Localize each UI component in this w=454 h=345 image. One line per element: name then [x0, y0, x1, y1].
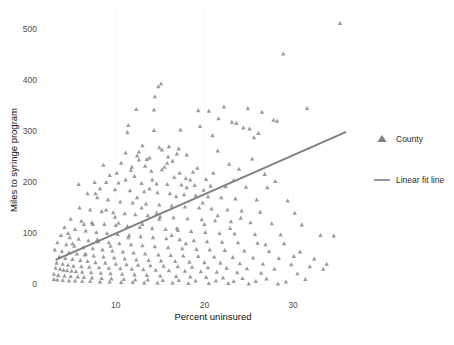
y-tick-label: 500: [23, 24, 37, 34]
y-tick-label: 0: [32, 279, 37, 289]
y-tick-label: 200: [23, 177, 37, 187]
x-tick-label: 20: [200, 300, 210, 310]
legend-label-county: County: [396, 134, 424, 144]
y-tick-label: 300: [23, 126, 37, 136]
chart-figure: 102030 0100200300400500 Percent uninsure…: [0, 0, 454, 345]
x-axis-title: Percent uninsured: [174, 311, 251, 322]
y-axis-title: Miles to syringe program: [8, 108, 19, 212]
x-tick-label: 10: [111, 300, 121, 310]
y-tick-label: 100: [23, 228, 37, 238]
scatter-plot-svg: 102030 0100200300400500 Percent uninsure…: [0, 0, 454, 345]
legend-label-fit-line: Linear fit line: [396, 175, 444, 185]
x-tick-label: 30: [288, 300, 298, 310]
plot-background: [0, 0, 454, 345]
y-tick-label: 400: [23, 75, 37, 85]
